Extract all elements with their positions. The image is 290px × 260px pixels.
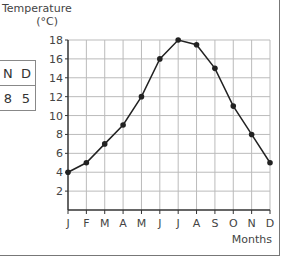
data-point xyxy=(139,94,145,100)
x-tick-label: O xyxy=(229,217,238,230)
x-tick-label: S xyxy=(211,217,218,230)
x-tick-label: J xyxy=(65,217,69,230)
y-tick-label: 2 xyxy=(56,185,63,198)
data-point xyxy=(230,103,236,109)
x-tick-label: F xyxy=(83,217,89,230)
x-tick-label: M xyxy=(100,217,110,230)
y-tick-label: 10 xyxy=(49,110,63,123)
data-point xyxy=(175,37,181,43)
y-tick-label: 8 xyxy=(56,128,63,141)
y-tick-label: 14 xyxy=(49,72,63,85)
y-tick-label: 4 xyxy=(56,166,63,179)
data-point xyxy=(249,132,255,138)
y-tick-label: 12 xyxy=(49,91,63,104)
y-tick-label: 18 xyxy=(49,34,63,47)
data-point xyxy=(65,169,71,175)
data-point xyxy=(120,122,126,128)
data-point xyxy=(212,66,218,72)
data-point xyxy=(194,42,200,48)
line-chart: 24681012141618JFMAMJJASONDMonths xyxy=(0,0,290,260)
x-tick-label: M xyxy=(137,217,147,230)
x-tick-label: D xyxy=(266,217,274,230)
data-point xyxy=(84,160,90,166)
x-tick-label: N xyxy=(248,217,256,230)
y-tick-label: 16 xyxy=(49,53,63,66)
x-axis-label: Months xyxy=(232,233,272,246)
data-point xyxy=(157,56,163,62)
data-point xyxy=(102,141,108,147)
x-tick-label: A xyxy=(193,217,201,230)
data-line xyxy=(68,40,270,172)
x-tick-label: A xyxy=(119,217,127,230)
data-point xyxy=(267,160,273,166)
x-tick-label: J xyxy=(157,217,161,230)
x-tick-label: J xyxy=(176,217,180,230)
y-tick-label: 6 xyxy=(56,147,63,160)
